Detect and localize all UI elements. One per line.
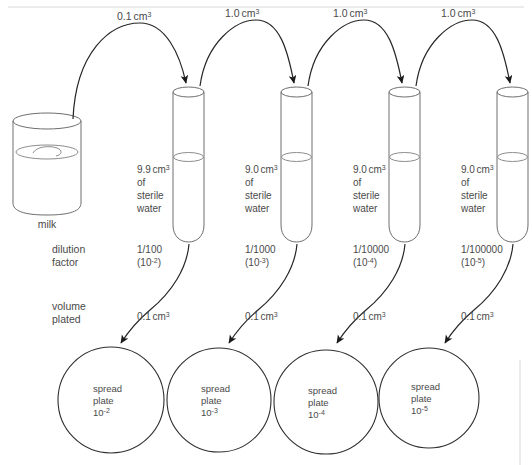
test-tube-1 [173,87,204,242]
tube-contents-label-4: 9.0cm3 of sterile water [460,164,494,215]
dilution-factor-value-1: 1/100 (10-2) [137,244,162,268]
svg-text:water: water [460,203,486,214]
svg-text:of: of [353,177,362,188]
svg-text:spread: spread [93,383,122,394]
svg-text:plate: plate [93,395,114,406]
transfer-arc-4 [416,20,510,86]
svg-text:plated: plated [52,313,81,325]
milk-beaker-label: milk [38,218,57,230]
volume-plated-row-label: volume plated [52,300,86,325]
spread-plate-4: spread plate 10-5 [379,348,479,448]
svg-text:water: water [244,203,270,214]
dilution-factor-value-4: 1/100000 (10-5) [461,244,503,268]
svg-text:10-5: 10-5 [411,405,428,417]
svg-text:(10-5): (10-5) [461,257,485,269]
spread-plate-2: spread plate 10-3 [167,348,271,452]
svg-text:of: of [245,177,254,188]
plated-volume-label-2: 0.1cm3 [245,311,278,323]
svg-text:sterile: sterile [353,190,380,201]
test-tube-3 [389,87,420,242]
test-tube-2 [281,87,312,242]
tube-contents-label-1: 9.9cm3 of sterile water [136,164,170,215]
svg-text:of: of [461,177,470,188]
svg-text:spread: spread [308,385,337,396]
svg-text:spread: spread [201,383,230,394]
transfer-volume-label-1: 0.1cm3 [117,10,152,22]
svg-text:9.0cm3: 9.0cm3 [461,164,494,176]
svg-text:1/100000: 1/100000 [461,244,503,255]
svg-text:1/1000: 1/1000 [245,244,276,255]
svg-text:volume: volume [52,300,86,312]
transfer-arc-2 [200,20,294,86]
svg-text:spread: spread [411,381,440,392]
plated-volume-label-3: 0.1cm3 [353,311,386,323]
svg-text:10-4: 10-4 [308,409,325,421]
svg-text:sterile: sterile [245,190,272,201]
svg-text:(10-3): (10-3) [245,257,269,269]
svg-text:10-3: 10-3 [201,407,218,419]
dilution-factor-value-3: 1/10000 (10-4) [353,244,390,268]
transfer-arc-1 [73,23,186,119]
svg-text:9.9cm3: 9.9cm3 [137,164,170,176]
dilution-factor-value-2: 1/1000 (10-3) [245,244,276,268]
spread-plate-3: spread plate 10-4 [274,350,378,454]
transfer-arc-3 [308,20,402,86]
svg-text:10-2: 10-2 [93,407,110,419]
svg-text:sterile: sterile [137,190,164,201]
svg-text:factor: factor [52,256,79,268]
milk-beaker: milk [13,113,81,230]
svg-text:of: of [137,177,146,188]
tube-contents-label-3: 9.0cm3 of sterile water [352,164,386,215]
svg-text:water: water [136,203,162,214]
plated-volume-label-4: 0.1cm3 [461,311,494,323]
svg-text:(10-2): (10-2) [137,257,161,269]
svg-text:water: water [352,203,378,214]
transfer-volume-label-3: 1.0cm3 [333,7,368,19]
svg-text:dilution: dilution [52,243,85,255]
svg-text:(10-4): (10-4) [353,257,377,269]
plated-volume-label-1: 0.1cm3 [137,311,170,323]
svg-text:9.0cm3: 9.0cm3 [245,164,278,176]
svg-text:sterile: sterile [461,190,488,201]
svg-text:1/10000: 1/10000 [353,244,390,255]
svg-text:plate: plate [308,397,329,408]
svg-text:plate: plate [201,395,222,406]
diagram-canvas: milk [0,0,532,465]
tube-contents-label-2: 9.0cm3 of sterile water [244,164,278,215]
spread-plate-1: spread plate 10-2 [58,347,164,453]
test-tube-4 [497,87,528,242]
svg-text:1/100: 1/100 [137,244,162,255]
svg-text:9.0cm3: 9.0cm3 [353,164,386,176]
dilution-factor-row-label: dilution factor [52,243,85,268]
transfer-volume-label-4: 1.0cm3 [441,7,476,19]
transfer-volume-label-2: 1.0cm3 [225,7,260,19]
svg-text:plate: plate [411,393,432,404]
